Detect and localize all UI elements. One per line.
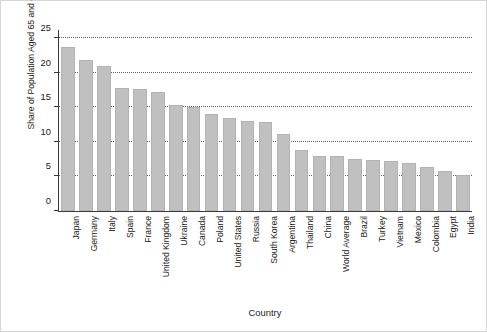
x-axis-tick-label: United States (233, 216, 243, 268)
plot-area: 0510152025 JapanGermanyItalySpainFranceU… (58, 30, 472, 212)
bar[interactable] (205, 114, 219, 211)
bar-slot (328, 30, 346, 211)
x-axis-tick-label: Poland (215, 216, 225, 243)
bar[interactable] (151, 92, 165, 212)
bar-slot (292, 30, 310, 211)
x-axis-tick-label: Vietnam (395, 216, 405, 247)
x-axis-tick-label: Canada (197, 216, 207, 246)
bar[interactable] (384, 161, 398, 211)
x-axis-tick-label: China (323, 216, 333, 238)
bar[interactable] (420, 167, 434, 211)
x-axis-tick-label: Spain (125, 216, 135, 238)
x-axis-tick-label: Argentina (287, 216, 297, 253)
bar[interactable] (348, 159, 362, 212)
bar[interactable] (187, 107, 201, 211)
x-axis-tick-label: Germany (89, 216, 99, 251)
bar[interactable] (313, 156, 327, 211)
bar[interactable] (169, 105, 183, 211)
x-axis-tick-label: Russia (251, 216, 261, 242)
x-axis-tick-label: France (143, 216, 153, 243)
y-axis-tick-label: 5 (46, 160, 51, 171)
x-axis-tick-label: Egypt (448, 216, 458, 238)
x-axis-tick-label: Turkey (377, 216, 387, 242)
x-axis-tick-label: India (466, 216, 476, 235)
bar[interactable] (241, 121, 255, 212)
bar-slot (436, 30, 454, 211)
bar-slot (382, 30, 400, 211)
bar[interactable] (295, 150, 309, 211)
y-axis-tick-label: 15 (41, 91, 51, 102)
x-axis-tick-label: Mexico (413, 216, 423, 243)
y-axis-tick-label: 0 (46, 195, 51, 206)
bar[interactable] (97, 66, 111, 211)
bar-slot (418, 30, 436, 211)
bar-series (59, 30, 472, 211)
bar[interactable] (330, 156, 344, 211)
x-axis-tick-label: South Korea (269, 216, 279, 264)
bar-slot (257, 30, 275, 211)
y-axis-tick-label: 20 (41, 56, 51, 67)
bar-slot (59, 30, 77, 211)
x-axis-tick-label: Italy (107, 216, 117, 232)
y-axis-tick-label: 25 (41, 22, 51, 33)
bar-slot (310, 30, 328, 211)
bar-slot (221, 30, 239, 211)
bar-slot (203, 30, 221, 211)
bar[interactable] (79, 60, 93, 211)
bar-slot (239, 30, 257, 211)
bar[interactable] (115, 88, 129, 211)
bar-slot (113, 30, 131, 211)
bar-slot (454, 30, 472, 211)
bar[interactable] (259, 122, 273, 211)
bar-slot (185, 30, 203, 211)
bar-slot (364, 30, 382, 211)
x-axis-tick-label: Colombia (431, 216, 441, 252)
bar-slot (167, 30, 185, 211)
x-axis-title: Country (58, 307, 472, 318)
bar-slot (95, 30, 113, 211)
x-axis-tick-label: Ukraine (179, 216, 189, 246)
bar[interactable] (438, 171, 452, 211)
bar[interactable] (277, 134, 291, 211)
bar-slot (400, 30, 418, 211)
y-axis-title: Share of Population Aged 65 and Older (%… (26, 0, 38, 140)
bar[interactable] (456, 175, 470, 211)
x-axis-tick-label: United Kingdom (161, 216, 171, 277)
bar-slot (131, 30, 149, 211)
bar[interactable] (133, 89, 147, 211)
x-axis-tick-label: World Average (341, 216, 351, 272)
x-axis-tick-label: Japan (71, 216, 81, 239)
bar[interactable] (366, 160, 380, 211)
chart-figure: Share of Population Aged 65 and Older (%… (0, 0, 487, 332)
bar-slot (149, 30, 167, 211)
x-axis-tick-label: Thailand (305, 216, 315, 249)
x-axis-tick-label: Brazil (359, 216, 369, 238)
bar[interactable] (223, 118, 237, 211)
bar[interactable] (61, 47, 75, 211)
bar[interactable] (402, 163, 416, 211)
bar-slot (77, 30, 95, 211)
bar-slot (346, 30, 364, 211)
y-axis-tick-label: 10 (41, 125, 51, 136)
bar-slot (274, 30, 292, 211)
